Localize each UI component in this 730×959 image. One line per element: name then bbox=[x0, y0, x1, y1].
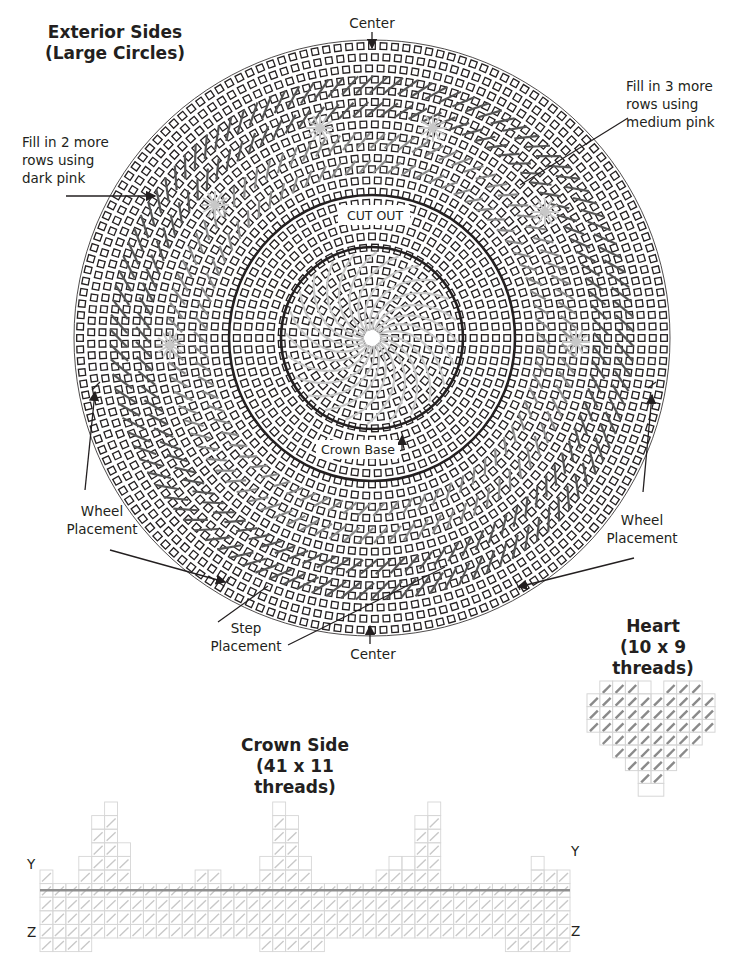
crown-marker-y-right: Y bbox=[571, 842, 579, 860]
crown-side-pattern bbox=[40, 802, 570, 952]
center-top-label: Center bbox=[342, 14, 402, 32]
heart-pattern bbox=[587, 681, 715, 796]
note-line: medium pink bbox=[626, 113, 730, 131]
heart-title-line2: (10 x 9 threads) bbox=[578, 637, 728, 679]
crown-marker-z-left: Z bbox=[27, 923, 36, 941]
note-line: Fill in 3 more bbox=[626, 77, 730, 95]
note-line: Fill in 2 more bbox=[22, 133, 142, 151]
label-line: Placement bbox=[62, 520, 142, 538]
crown-side-title: Crown Side (41 x 11 threads) bbox=[220, 735, 370, 798]
exterior-sides-title-line2: (Large Circles) bbox=[30, 43, 200, 64]
exterior-sides-title-line1: Exterior Sides bbox=[30, 22, 200, 43]
fill-dark-pink-note: Fill in 2 more rows using dark pink bbox=[22, 133, 142, 187]
label-line: Wheel bbox=[602, 511, 682, 529]
label-line: Placement bbox=[602, 529, 682, 547]
heart-title-line1: Heart bbox=[578, 616, 728, 637]
wheel-placement-left-label: Wheel Placement bbox=[62, 502, 142, 538]
crown-marker-y-left: Y bbox=[27, 855, 35, 873]
cut-out-label: CUT OUT bbox=[340, 207, 410, 225]
center-bottom-label: Center bbox=[343, 645, 403, 663]
step-placement-label: Step Placement bbox=[206, 619, 286, 655]
exterior-sides-title: Exterior Sides (Large Circles) bbox=[30, 22, 200, 64]
fill-medium-pink-note: Fill in 3 more rows using medium pink bbox=[626, 77, 730, 131]
label-line: Placement bbox=[206, 637, 286, 655]
crown-side-title-line2: (41 x 11 threads) bbox=[220, 756, 370, 798]
note-line: dark pink bbox=[22, 169, 142, 187]
wheel-placement-right-label: Wheel Placement bbox=[602, 511, 682, 547]
crown-marker-z-right: Z bbox=[571, 922, 580, 940]
label-line: Wheel bbox=[62, 502, 142, 520]
label-line: Step bbox=[206, 619, 286, 637]
crown-base-label: Crown Base bbox=[318, 441, 398, 459]
crown-side-title-line1: Crown Side bbox=[220, 735, 370, 756]
note-line: rows using bbox=[22, 151, 142, 169]
note-line: rows using bbox=[626, 95, 730, 113]
heart-title: Heart (10 x 9 threads) bbox=[578, 616, 728, 679]
